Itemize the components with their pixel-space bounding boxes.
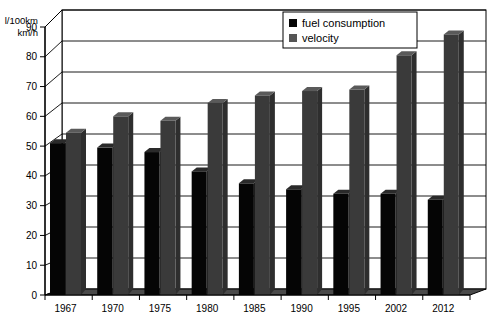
bar-velocity-1980-front	[208, 103, 223, 295]
legend[interactable]: fuel consumption velocity	[283, 12, 417, 48]
bar-velocity-2012-front	[444, 34, 459, 295]
bar-fuel-consumption-1990-front	[286, 189, 301, 295]
y-axis-ticks: 0102030405060708090	[26, 22, 45, 301]
bar-velocity-1980-side	[223, 99, 228, 295]
x-axis-label-1970: 1970	[102, 303, 125, 314]
bar-velocity-1967	[66, 129, 86, 295]
y-tick-label-40: 40	[26, 170, 38, 181]
bar-velocity-1975	[160, 117, 180, 295]
x-axis-ticks	[45, 295, 470, 300]
bar-fuel-consumption-1985-front	[239, 183, 254, 295]
bar-velocity-1980	[208, 99, 228, 295]
bar-velocity-2002-front	[397, 55, 412, 295]
x-axis-label-1990: 1990	[290, 303, 313, 314]
x-axis-label-1975: 1975	[149, 303, 172, 314]
bar-velocity-1970-front	[113, 116, 128, 295]
bar-velocity-2002-side	[412, 51, 417, 295]
bar-velocity-1985-front	[255, 95, 270, 295]
legend-swatch-velocity	[289, 34, 297, 42]
legend-item-fuel-consumption[interactable]: fuel consumption	[289, 17, 385, 29]
y-tick-label-0: 0	[31, 290, 37, 301]
bar-fuel-consumption-1995-front	[333, 194, 348, 295]
bar-velocity-1990-front	[302, 91, 317, 295]
bar-velocity-1970-side	[128, 112, 133, 295]
y-axis-unit-line2: km/h	[17, 27, 38, 38]
x-axis-label-2002: 2002	[385, 303, 408, 314]
bar-velocity-1967-front	[66, 133, 81, 295]
bar-velocity-1995-front	[349, 90, 364, 295]
bar-chart: 0102030405060708090 19671970197519801985…	[0, 0, 495, 320]
bar-velocity-1967-side	[81, 129, 86, 295]
legend-label-velocity: velocity	[302, 32, 339, 44]
bar-velocity-1995-side	[364, 86, 369, 295]
y-tick-label-70: 70	[26, 81, 38, 92]
x-axis-labels: 196719701975198019851990199520022012	[54, 303, 454, 314]
chart-canvas: 0102030405060708090 19671970197519801985…	[0, 0, 495, 320]
legend-label-fuel-consumption: fuel consumption	[302, 17, 385, 29]
x-axis-label-1967: 1967	[54, 303, 77, 314]
x-axis-label-1980: 1980	[196, 303, 219, 314]
x-axis-label-1995: 1995	[338, 303, 361, 314]
y-tick-label-10: 10	[26, 260, 38, 271]
bar-velocity-1970	[113, 112, 133, 295]
legend-swatch-fuel-consumption	[289, 19, 297, 27]
y-tick-label-80: 80	[26, 51, 38, 62]
bar-fuel-consumption-2012-front	[428, 200, 443, 295]
bar-velocity-1990	[302, 87, 322, 295]
bar-fuel-consumption-1970-front	[97, 148, 112, 295]
y-tick-label-60: 60	[26, 111, 38, 122]
y-tick-label-30: 30	[26, 200, 38, 211]
bar-velocity-2012-side	[459, 30, 464, 295]
bar-fuel-consumption-1975-front	[144, 152, 159, 295]
x-axis-label-2012: 2012	[432, 303, 455, 314]
bar-fuel-consumption-1967-front	[50, 143, 65, 295]
bar-velocity-2002	[397, 51, 417, 295]
bar-velocity-2012	[444, 30, 464, 295]
bar-fuel-consumption-2002-front	[381, 194, 396, 295]
x-axis-label-1985: 1985	[243, 303, 266, 314]
y-tick-label-20: 20	[26, 230, 38, 241]
bar-velocity-1985-side	[270, 91, 275, 295]
bar-velocity-1975-front	[160, 121, 175, 295]
bar-fuel-consumption-1980-front	[192, 171, 207, 295]
bar-velocity-1975-side	[175, 117, 180, 295]
y-tick-label-50: 50	[26, 141, 38, 152]
bar-velocity-1995	[349, 86, 369, 295]
bar-velocity-1990-side	[317, 87, 322, 295]
y-axis-unit-line1: l/100km	[5, 15, 38, 26]
bar-velocity-1985	[255, 91, 275, 295]
